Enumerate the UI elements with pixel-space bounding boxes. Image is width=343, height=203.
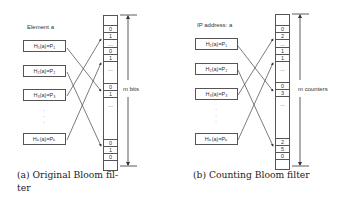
panel-original-bloom-filter: Element a H₁(a)=P₁ H₂(a)=P₂ H₃(a)=P₃ ···… [0, 0, 172, 203]
caption-line-1: (a) Original Bloom fil- [17, 168, 118, 181]
panel-counting-bloom-filter: IP address: a H₁(a)=P₁ H₂(a)=P₂ H₃(a)=P₃… [175, 0, 343, 203]
caption-a: (a) Original Bloom fil- ter [17, 168, 118, 194]
caption-b: (b) Counting Bloom filter [193, 168, 310, 181]
caption-line-1: (b) Counting Bloom filter [193, 168, 310, 181]
caption-line-2: ter [17, 181, 118, 194]
